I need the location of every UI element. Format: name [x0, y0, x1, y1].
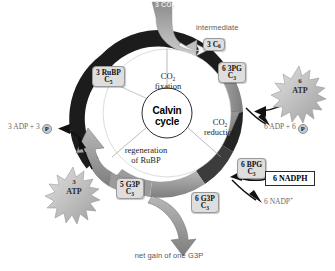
- molecule-chip-6-bpg: 6 BPG C3: [237, 158, 266, 179]
- sector-label-co2-reduction: CO2 reduction: [196, 118, 244, 138]
- calvin-cycle-artwork: [0, 0, 335, 271]
- phosphate-circle-right: P: [298, 124, 309, 135]
- molecule-chip-5-g3p: 5 G3P C3: [116, 178, 144, 199]
- nadph-input-label: 6 NADPH: [265, 171, 315, 186]
- co2-input-label: 3 CO2: [148, 1, 182, 11]
- sector-label-regeneration: regeneration of RuBP: [108, 146, 184, 165]
- nadp-out-arrow: [232, 180, 262, 203]
- molecule-chip-6-3pg: 6 3PG C3: [218, 62, 246, 83]
- molecule-chip-6-g3p: 6 G3P C3: [191, 192, 219, 213]
- net-gain-caption: net gain of one G3P: [117, 252, 221, 260]
- phosphate-circle-left: P: [42, 124, 53, 135]
- adp-output-label-left: 3 ADP + 3 P: [8, 123, 70, 134]
- sector-label-co2-fixation: CO2 fixation: [140, 72, 196, 92]
- atp-burst-right: 6 ATP: [272, 78, 328, 104]
- atp-burst-left: 3 ATP: [46, 179, 102, 205]
- molecule-chip-3-c6: 3 C6: [203, 38, 225, 51]
- center-title: Calvin cycle: [142, 105, 192, 127]
- molecule-chip-3-rubp: 3 RuBP C5: [92, 66, 125, 87]
- calvin-cycle-figure: 3 CO2 intermediate 3 C6 6 3PG C3 6 BPG C…: [0, 0, 335, 271]
- nadp-output-label: 6 NADP+: [264, 197, 320, 206]
- intermediate-label: intermediate: [196, 24, 258, 32]
- adp-output-label-right: 6 ADP + 6 P: [264, 123, 332, 134]
- net-gain-arrow: [148, 196, 196, 256]
